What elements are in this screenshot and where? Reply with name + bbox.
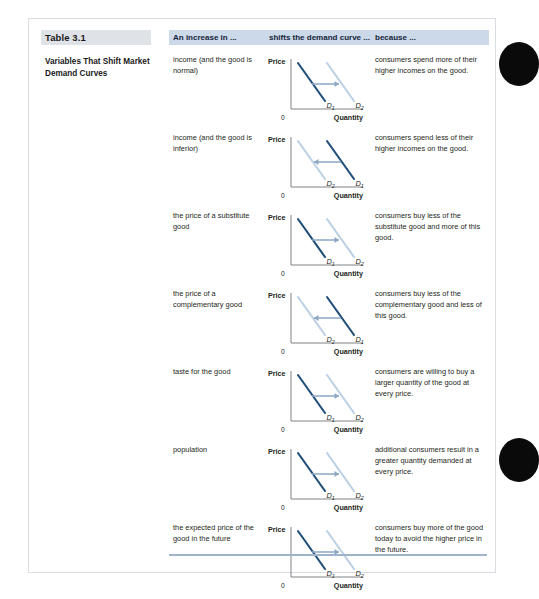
- cell-because: consumers are willing to buy a larger qu…: [371, 357, 489, 399]
- svg-text:Quantity: Quantity: [334, 269, 363, 278]
- cell-because: consumers buy less of the complementary …: [371, 279, 489, 321]
- svg-text:Price: Price: [268, 213, 286, 222]
- svg-text:Quantity: Quantity: [334, 581, 363, 590]
- cell-cause: the price of a substitute good: [169, 201, 265, 232]
- table-row: the expected price of the good in the fu…: [169, 513, 489, 591]
- svg-text:0: 0: [281, 504, 285, 511]
- table-number: Table 3.1: [41, 30, 151, 45]
- svg-text:Quantity: Quantity: [334, 425, 363, 434]
- svg-text:D2: D2: [356, 491, 364, 501]
- svg-text:Quantity: Quantity: [334, 191, 363, 200]
- svg-text:Price: Price: [268, 525, 286, 534]
- table-row: populationPriceQuantity0D1D2additional c…: [169, 435, 489, 513]
- cell-because: consumers buy less of the substitute goo…: [371, 201, 489, 243]
- svg-text:0: 0: [281, 348, 285, 355]
- svg-text:Price: Price: [268, 135, 286, 144]
- table-row: income (and the good is normal)PriceQuan…: [169, 45, 489, 123]
- svg-text:0: 0: [281, 192, 285, 199]
- table-bottom-rule: [169, 554, 487, 557]
- table-row: the price of a complementary goodPriceQu…: [169, 279, 489, 357]
- cell-cause: income (and the good is normal): [169, 45, 265, 76]
- svg-text:D1: D1: [327, 257, 335, 267]
- svg-text:D2: D2: [356, 257, 364, 267]
- cell-cause: population: [169, 435, 265, 455]
- svg-text:Quantity: Quantity: [334, 113, 363, 122]
- svg-text:D2: D2: [356, 101, 364, 111]
- svg-text:0: 0: [281, 426, 285, 433]
- cell-demand-curve-chart: PriceQuantity0D1D2: [265, 357, 371, 435]
- svg-text:D1: D1: [327, 101, 335, 111]
- svg-text:Price: Price: [268, 369, 286, 378]
- svg-text:D1: D1: [327, 413, 335, 423]
- svg-text:D1: D1: [327, 569, 335, 579]
- svg-text:Price: Price: [268, 447, 286, 456]
- demand-shift-table: An increase in ... shifts the demand cur…: [169, 30, 489, 591]
- cell-demand-curve-chart: PriceQuantity0D1D2: [265, 201, 371, 279]
- table-card: Table 3.1 Variables That Shift Market De…: [28, 18, 496, 573]
- svg-text:0: 0: [281, 582, 285, 589]
- table-row: income (and the good is inferior)PriceQu…: [169, 123, 489, 201]
- svg-text:D2: D2: [356, 413, 364, 423]
- cell-cause: the expected price of the good in the fu…: [169, 513, 265, 544]
- cell-demand-curve-chart: PriceQuantity0D1D2: [265, 279, 371, 357]
- svg-text:D2: D2: [327, 335, 335, 345]
- svg-text:D1: D1: [327, 491, 335, 501]
- cell-cause: taste for the good: [169, 357, 265, 377]
- table-title-panel: Table 3.1 Variables That Shift Market De…: [29, 19, 169, 572]
- cell-because: consumers buy more of the good today to …: [371, 513, 489, 555]
- table-header-row: An increase in ... shifts the demand cur…: [169, 30, 489, 45]
- column-header-shift: shifts the demand curve ...: [265, 33, 371, 42]
- cell-because: additional consumers result in a greater…: [371, 435, 489, 477]
- page-edge-tab-upper: [499, 42, 539, 86]
- svg-text:Price: Price: [268, 291, 286, 300]
- cell-demand-curve-chart: PriceQuantity0D1D2: [265, 435, 371, 513]
- column-header-because: because ...: [371, 33, 489, 42]
- table-row: the price of a substitute goodPriceQuant…: [169, 201, 489, 279]
- cell-cause: the price of a complementary good: [169, 279, 265, 310]
- svg-text:D1: D1: [356, 179, 364, 189]
- svg-text:D2: D2: [327, 179, 335, 189]
- cell-demand-curve-chart: PriceQuantity0D1D2: [265, 123, 371, 201]
- svg-text:0: 0: [281, 270, 285, 277]
- page-edge-tab-lower: [499, 438, 539, 482]
- svg-text:Price: Price: [268, 57, 286, 66]
- svg-text:D2: D2: [356, 569, 364, 579]
- cell-cause: income (and the good is inferior): [169, 123, 265, 154]
- cell-demand-curve-chart: PriceQuantity0D1D2: [265, 45, 371, 123]
- table-body: income (and the good is normal)PriceQuan…: [169, 45, 489, 591]
- table-title: Variables That Shift Market Demand Curve…: [41, 56, 157, 80]
- cell-demand-curve-chart: PriceQuantity0D1D2: [265, 513, 371, 591]
- column-header-cause: An increase in ...: [169, 33, 265, 42]
- table-row: taste for the goodPriceQuantity0D1D2cons…: [169, 357, 489, 435]
- svg-text:Quantity: Quantity: [334, 503, 363, 512]
- cell-because: consumers spend more of their higher inc…: [371, 45, 489, 76]
- cell-because: consumers spend less of their higher inc…: [371, 123, 489, 154]
- svg-text:D1: D1: [356, 335, 364, 345]
- svg-text:Quantity: Quantity: [334, 347, 363, 356]
- svg-text:0: 0: [281, 114, 285, 121]
